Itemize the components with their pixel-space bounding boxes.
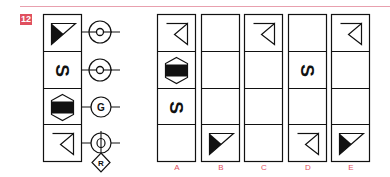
connector-3-circle-g-icon: G [82,97,121,117]
option-a-label[interactable]: A [157,163,197,172]
connector-4-circle-phi-icon [82,131,121,153]
option-d-letter-s-icon [297,64,318,77]
option-e-column[interactable] [332,15,370,162]
option-c-label[interactable]: C [244,163,284,172]
svg-text:G: G [97,102,105,113]
option-d-column[interactable] [289,15,327,162]
stack-cell-2-letter-s-icon [52,64,73,77]
option-a-column[interactable] [158,15,196,162]
option-b-column[interactable] [202,15,240,162]
stack-cell-3-hexagon-icon [52,95,74,121]
option-a-letter-s-icon [166,101,187,114]
stack-cell-1-triangle-filled-icon [52,24,76,45]
diamond-r-icon: R [92,153,110,172]
connector-1-circle-dot-icon [82,21,121,43]
option-a-hexagon-icon [166,58,188,84]
stack-cell-4-triangle-outline-icon [53,134,74,155]
puzzle-diagram: S G R [0,0,390,177]
connector-2-circle-dot-icon [82,59,121,81]
svg-text:R: R [98,159,104,168]
option-e-label[interactable]: E [331,163,371,172]
option-d-label[interactable]: D [288,163,328,172]
stack-column [44,15,82,162]
option-c-column[interactable] [245,15,283,162]
option-b-label[interactable]: B [201,163,241,172]
